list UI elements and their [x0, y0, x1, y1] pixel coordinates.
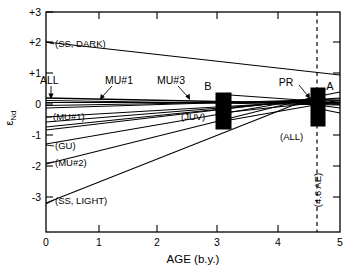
x-tick-label-0: 0 [43, 236, 49, 248]
series-label-all-paren: (ALL) [280, 131, 303, 142]
x-tick-label-2: 2 [154, 236, 160, 248]
x-axis-ticks-top [99, 12, 278, 19]
y-tick-label-minus1: -1 [32, 129, 41, 141]
y-axis-title-sub: Nd [9, 110, 18, 120]
leader-pr [299, 85, 310, 99]
series-label-mu2-paren: (MU#2) [55, 157, 87, 168]
reference-line-label: (4.6 AE) [312, 173, 323, 207]
series-label-gu: (GU) [55, 140, 76, 151]
y-axis-ticks [46, 12, 53, 197]
series-fan-right [230, 95, 315, 120]
evolution-box-a [311, 88, 325, 126]
series-label-mu1: MU#1 [105, 74, 133, 86]
leader-gu [46, 145, 54, 146]
leader-mu1 [100, 86, 112, 100]
leader-all [48, 86, 53, 99]
series-label-mu1-paren: (MU#1) [53, 111, 85, 122]
series-line-mu2-paren [46, 96, 319, 164]
y-tick-label-plus3: +3 [29, 6, 41, 18]
epsilon-nd-vs-age-chart: +3 +2 +1 0 -1 -2 -3 0 1 2 3 4 5 AGE (b.y… [0, 0, 351, 268]
leader-mu3 [178, 86, 190, 100]
series-label-ss-dark: (SS, DARK) [55, 38, 106, 49]
series-label-all: ALL [40, 74, 59, 86]
x-axis-title: AGE (b.y.) [167, 253, 220, 265]
box-label-a: A [326, 80, 334, 92]
leader-mu2 [46, 162, 54, 163]
y-axis-ticks-right [333, 42, 340, 197]
series-label-mu3: MU#3 [157, 74, 185, 86]
y-axis-title: εNd [3, 110, 18, 125]
evolution-box-b [216, 93, 231, 129]
x-tick-label-3: 3 [214, 236, 220, 248]
box-label-b: B [204, 80, 211, 92]
pointer-label-pr: PR [279, 76, 294, 88]
chart-figure: +3 +2 +1 0 -1 -2 -3 0 1 2 3 4 5 AGE (b.y… [0, 0, 351, 268]
x-tick-label-1: 1 [96, 236, 102, 248]
series-label-ss-light: (SS, LIGHT) [55, 195, 107, 206]
x-tick-label-4: 4 [275, 236, 281, 248]
svg-text:εNd: εNd [3, 110, 18, 125]
y-tick-label-minus2: -2 [32, 160, 41, 172]
y-tick-label-minus3: -3 [32, 191, 41, 203]
y-tick-label-plus2: +2 [29, 36, 41, 48]
y-tick-label-zero: 0 [35, 98, 41, 110]
x-tick-label-5: 5 [337, 236, 343, 248]
x-axis-ticks [99, 225, 278, 232]
series-label-juv: (JUV) [181, 111, 205, 122]
reference-line-label-text: (4.6 AE) [312, 173, 323, 207]
